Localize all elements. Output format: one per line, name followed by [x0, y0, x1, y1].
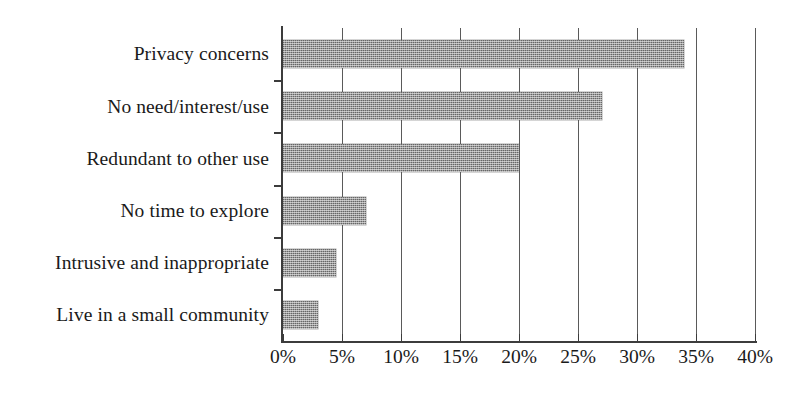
- y-tick-4: [274, 237, 282, 239]
- plot-area: [283, 28, 755, 341]
- y-axis-label-5: Live in a small community: [0, 289, 277, 341]
- gridline-40%: [755, 28, 756, 341]
- bar-band-1: [283, 80, 755, 132]
- bar-band-3: [283, 185, 755, 237]
- x-tick-label-10%: 10%: [383, 347, 419, 367]
- y-axis-label-1: No need/interest/use: [0, 80, 277, 132]
- bar-5: [283, 301, 318, 329]
- x-tick-label-40%: 40%: [737, 347, 773, 367]
- x-tick-label-0%: 0%: [270, 347, 296, 367]
- x-tick-25%: [578, 334, 579, 342]
- y-tick-2: [274, 132, 282, 134]
- x-tick-15%: [460, 334, 461, 342]
- y-axis-label-0: Privacy concerns: [0, 28, 277, 80]
- x-tick-20%: [519, 334, 520, 342]
- x-axis-tick-labels: 0%5%10%15%20%25%30%35%40%: [0, 347, 811, 373]
- x-tick-10%: [401, 334, 402, 342]
- x-tick-label-15%: 15%: [442, 347, 478, 367]
- y-tick-3: [274, 185, 282, 187]
- bar-4: [283, 249, 336, 277]
- y-tick-5: [274, 289, 282, 291]
- x-tick-30%: [637, 334, 638, 342]
- bar-band-4: [283, 237, 755, 289]
- x-tick-0%: [283, 334, 284, 342]
- x-tick-40%: [755, 334, 756, 342]
- x-tick-label-30%: 30%: [619, 347, 655, 367]
- bar-0: [283, 40, 684, 68]
- y-axis-label-4: Intrusive and inappropriate: [0, 237, 277, 289]
- y-tick-1: [274, 80, 282, 82]
- y-axis-category-labels: Privacy concerns No need/interest/use Re…: [0, 28, 277, 341]
- bar-chart: Privacy concerns No need/interest/use Re…: [0, 0, 811, 393]
- x-tick-label-35%: 35%: [678, 347, 714, 367]
- bar-band-0: [283, 28, 755, 80]
- bar-3: [283, 197, 366, 225]
- y-axis-label-2: Redundant to other use: [0, 132, 277, 184]
- x-tick-label-5%: 5%: [329, 347, 355, 367]
- bar-series: [283, 28, 755, 341]
- x-tick-5%: [342, 334, 343, 342]
- bar-1: [283, 92, 602, 120]
- x-tick-label-25%: 25%: [560, 347, 596, 367]
- y-axis-label-3: No time to explore: [0, 185, 277, 237]
- x-tick-35%: [696, 334, 697, 342]
- bar-band-2: [283, 132, 755, 184]
- x-tick-label-20%: 20%: [501, 347, 537, 367]
- bar-2: [283, 144, 519, 172]
